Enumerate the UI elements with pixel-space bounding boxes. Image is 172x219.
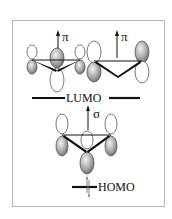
pi-label-left: π bbox=[62, 30, 69, 43]
lumo-label: LUMO bbox=[66, 92, 101, 104]
sigma-label: σ bbox=[93, 107, 100, 120]
homo-level bbox=[72, 176, 97, 198]
pi-orbital-left bbox=[27, 30, 85, 92]
homo-label: HOMO bbox=[98, 181, 135, 193]
pi-label-right: π bbox=[121, 30, 128, 43]
pi-orbital-right bbox=[87, 30, 149, 83]
sigma-orbital bbox=[56, 105, 117, 174]
orbital-diagram bbox=[0, 0, 172, 219]
